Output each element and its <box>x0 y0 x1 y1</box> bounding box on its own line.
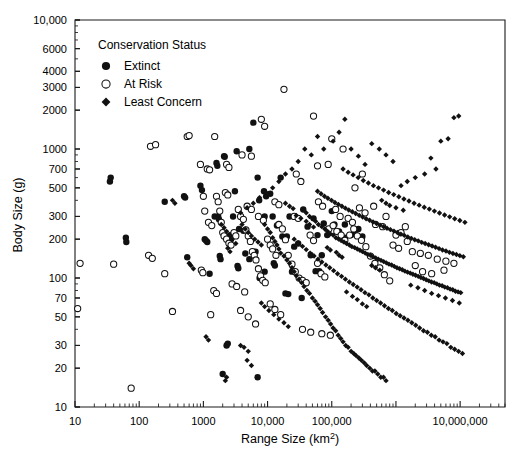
y-tick-label: 30 <box>55 339 67 351</box>
y-tick-label: 4000 <box>43 65 67 77</box>
point-at-risk <box>451 260 457 266</box>
point-at-risk <box>282 237 288 243</box>
point-extinct <box>230 213 236 219</box>
point-extinct <box>298 295 304 301</box>
point-at-risk <box>319 331 325 337</box>
point-least-concern <box>401 196 406 201</box>
point-at-risk <box>327 332 333 338</box>
legend: Conservation Status Extinct At Risk Leas… <box>98 38 206 109</box>
point-least-concern <box>378 300 383 305</box>
point-least-concern <box>422 171 427 176</box>
y-tick-label: 70 <box>55 292 67 304</box>
point-least-concern <box>447 214 452 219</box>
point-at-risk <box>314 163 320 169</box>
point-at-risk <box>351 226 357 232</box>
point-least-concern <box>445 136 450 141</box>
y-axis-ticks <box>75 20 80 407</box>
point-least-concern <box>379 198 384 203</box>
point-extinct <box>217 256 223 262</box>
legend-label-at-risk: At Risk <box>124 77 163 91</box>
point-at-risk <box>349 219 355 225</box>
point-least-concern <box>289 166 294 171</box>
point-at-risk <box>276 202 282 208</box>
point-at-risk <box>412 262 418 268</box>
point-extinct <box>242 250 248 256</box>
chart-canvas: 1020305070100200300500700100020003000400… <box>0 0 520 453</box>
point-least-concern <box>442 212 447 217</box>
point-at-risk <box>225 192 231 198</box>
point-least-concern <box>369 141 374 146</box>
point-at-risk <box>419 269 425 275</box>
point-extinct <box>250 119 256 125</box>
point-least-concern <box>429 291 434 296</box>
point-least-concern <box>321 146 326 151</box>
point-at-risk <box>371 203 377 209</box>
point-least-concern <box>376 185 381 190</box>
point-at-risk <box>215 199 221 205</box>
y-tick-label: 10,000 <box>33 14 67 26</box>
point-least-concern <box>422 204 427 209</box>
point-at-risk <box>264 236 270 242</box>
point-least-concern <box>259 300 264 305</box>
point-least-concern <box>304 247 309 252</box>
point-least-concern <box>302 146 307 151</box>
point-least-concern <box>311 224 316 229</box>
point-extinct <box>182 194 188 200</box>
point-least-concern <box>344 289 349 294</box>
point-least-concern <box>415 285 420 290</box>
point-at-risk <box>434 256 440 262</box>
x-axis-title-base: Range Size (km <box>241 432 330 446</box>
y-tick-label: 700 <box>49 163 67 175</box>
x-axis-tick-labels: 10100100010,000100,00010,000,000 <box>69 415 488 427</box>
y-tick-label: 10 <box>55 401 67 413</box>
point-least-concern <box>366 180 371 185</box>
y-axis-title: Body Size (g) <box>11 177 25 252</box>
y-tick-label: 300 <box>49 210 67 222</box>
point-at-risk <box>404 238 410 244</box>
point-at-risk <box>320 203 326 209</box>
point-least-concern <box>371 183 376 188</box>
point-at-risk <box>340 146 346 152</box>
point-least-concern <box>266 308 271 313</box>
point-least-concern <box>406 198 411 203</box>
point-least-concern <box>377 146 382 151</box>
point-least-concern <box>331 268 336 273</box>
point-at-risk <box>299 326 305 332</box>
point-least-concern <box>354 284 359 289</box>
point-at-risk <box>240 216 246 222</box>
point-at-risk <box>396 245 402 251</box>
point-extinct <box>225 340 231 346</box>
point-at-risk <box>279 226 285 232</box>
point-least-concern <box>427 206 432 211</box>
point-least-concern <box>393 205 398 210</box>
point-at-risk <box>262 123 268 129</box>
point-at-risk <box>262 280 268 286</box>
point-least-concern <box>355 297 360 302</box>
point-at-risk <box>234 283 240 289</box>
y-tick-label: 100 <box>49 272 67 284</box>
x-tick-label: 10,000,000 <box>433 415 488 427</box>
point-least-concern <box>428 155 433 160</box>
point-least-concern <box>336 129 341 134</box>
point-at-risk <box>252 321 258 327</box>
data-points-layer <box>75 86 468 391</box>
point-at-risk <box>208 312 214 318</box>
point-at-risk <box>202 208 208 214</box>
point-least-concern <box>323 262 328 267</box>
point-least-concern <box>350 172 355 177</box>
point-least-concern <box>246 349 251 354</box>
point-extinct <box>269 213 275 219</box>
point-least-concern <box>283 201 288 206</box>
point-at-risk <box>200 193 206 199</box>
point-at-risk <box>402 224 408 230</box>
point-at-risk <box>270 246 276 252</box>
x-tick-label: 100,000 <box>312 415 352 427</box>
point-at-risk <box>239 152 245 158</box>
y-tick-label: 1000 <box>43 143 67 155</box>
point-least-concern <box>436 293 441 298</box>
point-at-risk <box>325 161 331 167</box>
point-at-risk <box>197 161 203 167</box>
point-at-risk <box>363 244 369 250</box>
point-least-concern <box>360 301 365 306</box>
point-extinct <box>123 239 129 245</box>
